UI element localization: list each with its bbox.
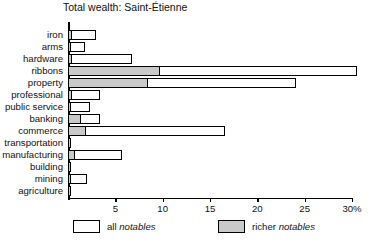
bar-row-label: banking [29,113,63,125]
bar-row: transportation [68,137,352,149]
x-axis-tick [115,198,116,202]
bar-richer-notables [68,42,71,52]
x-axis-tick [352,198,353,202]
bar-row: hardware [68,53,352,65]
bar-row: commerce [68,125,352,137]
bar-row: public service [68,101,352,113]
legend-swatch-gray [218,220,245,233]
bar-richer-notables [68,186,71,196]
bar-richer-notables [68,114,81,124]
bar-all-notables [68,54,132,64]
bar-row-label: commerce [18,125,63,137]
bar-richer-notables [68,138,71,148]
bar-richer-notables [68,66,160,76]
bar-richer-notables [68,102,71,112]
plot-area: ironarmshardwareribbonspropertyprofessio… [68,22,352,200]
chart-container: Total wealth: Saint-Étienne ironarmshard… [0,0,375,248]
bar-row: professional [68,89,352,101]
bar-row: iron [68,29,352,41]
bar-row-label: arms [42,41,63,53]
x-axis-tick-label: 10 [157,203,168,214]
bar-richer-notables [68,126,86,136]
x-axis-tick-label: 15 [205,203,216,214]
bar-row: building [68,161,352,173]
x-axis-tick [210,198,211,202]
x-axis-tick-label: 20 [252,203,263,214]
bar-row: mining [68,173,352,185]
bar-richer-notables [68,54,72,64]
bar-row: ribbons [68,65,352,77]
bar-all-notables [68,150,122,160]
x-axis-tick [257,198,258,202]
x-axis-tick-label: 25 [299,203,310,214]
x-axis-tick [305,198,306,202]
bar-row: property [68,77,352,89]
bar-row-label: hardware [23,53,63,65]
bar-row-label: mining [35,173,63,185]
bar-all-notables [68,90,100,100]
bar-row-label: transportation [4,137,63,149]
bar-richer-notables [68,150,75,160]
bar-rows: ironarmshardwareribbonspropertyprofessio… [68,29,352,197]
bar-row-label: building [30,161,63,173]
legend-item-richer-notables: richer notables [218,220,315,233]
bar-row: agriculture [68,185,352,197]
bar-all-notables [68,126,225,136]
bar-richer-notables [68,174,71,184]
bar-all-notables [68,102,90,112]
x-axis-tick-label: 5 [113,203,118,214]
bar-row: manufacturing [68,149,352,161]
legend-item-all-notables: all notables [73,220,156,233]
bar-all-notables [68,30,96,40]
bar-row-label: agriculture [18,185,63,197]
bar-richer-notables [68,162,71,172]
bar-row-label: ribbons [32,65,63,77]
bar-all-notables [68,174,87,184]
chart-title: Total wealth: Saint-Étienne [63,1,187,13]
bar-richer-notables [68,30,72,40]
legend-label-all-notables: all notables [107,221,156,233]
bar-row-label: iron [47,29,63,41]
bar-row-label: professional [11,89,63,101]
bar-richer-notables [68,90,72,100]
bar-row: arms [68,41,352,53]
legend-label-richer-notables: richer notables [252,221,315,233]
bar-richer-notables [68,78,148,88]
bar-row-label: manufacturing [2,149,63,161]
bar-row-label: property [28,77,63,89]
chart-legend: all notables richer notables [68,220,368,242]
bar-row-label: public service [5,101,63,113]
x-axis-tick-label: 30% [342,203,361,214]
x-axis-tick [163,198,164,202]
bar-row: banking [68,113,352,125]
legend-swatch-white [73,220,100,233]
